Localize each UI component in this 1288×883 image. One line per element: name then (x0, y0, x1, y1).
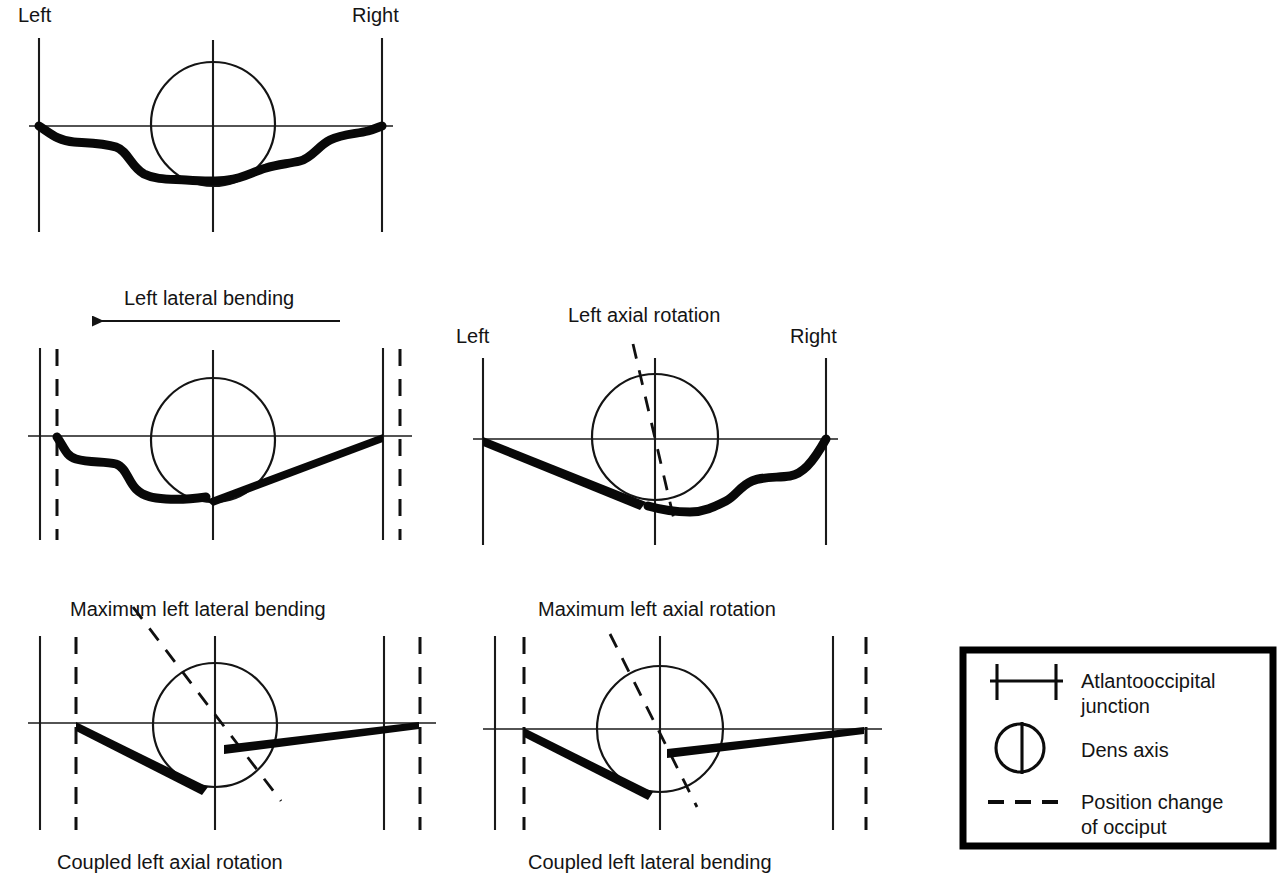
rotation-dashed-line (133, 607, 281, 801)
left-axial-rotation-label: Left axial rotation (568, 304, 720, 326)
panel-neutral-left-label: Left (18, 4, 52, 26)
occiput-line-left (57, 437, 206, 499)
figure-canvas: Left Right Left lateral bending Left a (0, 0, 1288, 883)
panel-axial-right-label: Right (790, 325, 837, 347)
occiput-line-right (648, 439, 826, 512)
occiput-wedge-left (524, 728, 653, 800)
panel-neutral-right-label: Right (352, 4, 399, 26)
maximum-left-lateral-bending-label: Maximum left lateral bending (70, 598, 326, 620)
panel-left-axial-rotation: Left axial rotation Left Right (456, 304, 838, 545)
legend-item-0-line2: junction (1080, 695, 1150, 717)
legend: Atlantooccipital junction Dens axis Posi… (963, 650, 1273, 846)
panel-axial-left-label: Left (456, 325, 490, 347)
caption-coupled-left-axial-rotation: Coupled left axial rotation (57, 851, 283, 873)
panel-max-left-axial-rotation: Maximum left axial rotation (483, 598, 882, 830)
maximum-left-axial-rotation-label: Maximum left axial rotation (538, 598, 776, 620)
legend-item-2-line1: Position change (1081, 791, 1223, 813)
panel-neutral: Left Right (18, 4, 399, 232)
legend-item-1-line1: Dens axis (1081, 739, 1169, 761)
occiput-line (39, 126, 382, 181)
panel-max-left-lateral-bending: Maximum left lateral bending (28, 598, 436, 830)
legend-item-0-line1: Atlantooccipital (1081, 670, 1216, 692)
occiput-wedge-left (483, 437, 646, 510)
caption-coupled-left-lateral-bending: Coupled left lateral bending (528, 851, 772, 873)
panel-left-lateral-bending: Left lateral bending (28, 287, 412, 540)
occiput-wedge-right (206, 434, 383, 506)
legend-item-2-line2: of occiput (1081, 816, 1167, 838)
occiput-wedge-right (667, 727, 864, 758)
left-lateral-bending-label: Left lateral bending (124, 287, 294, 309)
occiput-wedge-right (224, 722, 419, 754)
occiput-wedge-left (76, 722, 208, 795)
